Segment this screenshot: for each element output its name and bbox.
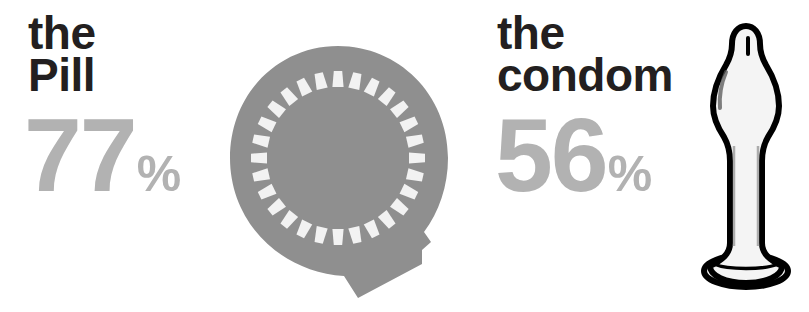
pill-heading: the Pill (28, 12, 180, 97)
condom-value-row: 56 % (495, 103, 673, 207)
condom-value-number: 56 (495, 103, 607, 207)
infographic-canvas: the Pill 77 % the condom 56 % (0, 0, 809, 312)
condom-value-unit: % (608, 149, 651, 199)
stat-block-condom: the condom 56 % (497, 12, 673, 207)
pill-heading-line-2: Pill (28, 54, 180, 96)
pill-value-number: 77 (24, 103, 136, 207)
condom-icon (690, 18, 802, 302)
stat-block-pill: the Pill 77 % (28, 12, 180, 207)
pill-value-row: 77 % (24, 103, 180, 207)
condom-heading-line-2: condom (497, 54, 673, 96)
pill-slot (332, 229, 343, 245)
condom-heading: the condom (497, 12, 673, 97)
pill-slot (332, 71, 343, 87)
condom-heading-line-1: the (497, 12, 673, 54)
pill-slot (251, 152, 267, 163)
pill-slot (409, 152, 425, 163)
pill-heading-line-1: the (28, 12, 180, 54)
pill-value-unit: % (137, 149, 180, 199)
birth-control-pill-pack-icon (218, 36, 464, 298)
